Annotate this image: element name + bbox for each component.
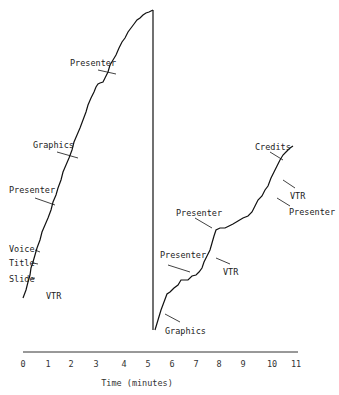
label-voice: Voice xyxy=(9,244,35,254)
label-presenter-1: Presenter xyxy=(9,185,55,195)
leader-graphics-1 xyxy=(57,152,78,158)
label-credits: Credits xyxy=(255,142,291,152)
label-presenter-4: Presenter xyxy=(176,208,222,218)
x-tick-3: 3 xyxy=(93,359,98,369)
leader-presenter-5 xyxy=(277,198,290,206)
x-tick-4: 4 xyxy=(121,359,126,369)
label-presenter-5: Presenter xyxy=(289,207,335,217)
time-chart: VTR Slide Title Voice Presenter Graphics… xyxy=(0,0,339,395)
x-axis-label: Time (minutes) xyxy=(101,378,173,388)
label-vtr-2: VTR xyxy=(223,267,239,277)
x-tick-2: 2 xyxy=(68,359,73,369)
x-tick-8: 8 xyxy=(216,359,221,369)
label-presenter-3: Presenter xyxy=(160,250,206,260)
curve-segment-1 xyxy=(23,10,153,298)
label-graphics-1: Graphics xyxy=(33,140,74,150)
label-presenter-2: Presenter xyxy=(70,58,116,68)
x-tick-5: 5 xyxy=(145,359,150,369)
leader-credits xyxy=(270,152,283,160)
x-tick-7: 7 xyxy=(193,359,198,369)
x-tick-0: 0 xyxy=(20,359,25,369)
x-tick-9: 9 xyxy=(240,359,245,369)
label-title: Title xyxy=(9,258,35,268)
label-vtr-1: VTR xyxy=(46,291,62,301)
leader-graphics-2 xyxy=(165,314,180,322)
x-tick-11: 11 xyxy=(291,359,301,369)
x-tick-1: 1 xyxy=(45,359,50,369)
leader-presenter-4 xyxy=(195,218,212,228)
leader-vtr-2 xyxy=(216,258,230,264)
leader-vtr-3 xyxy=(283,180,295,188)
leader-presenter-3 xyxy=(168,265,190,272)
label-slide: Slide xyxy=(9,274,35,284)
curve-segment-2 xyxy=(155,146,293,330)
x-tick-6: 6 xyxy=(169,359,174,369)
label-vtr-3: VTR xyxy=(290,191,306,201)
x-tick-10: 10 xyxy=(267,359,277,369)
label-graphics-2: Graphics xyxy=(165,326,206,336)
leader-presenter-1 xyxy=(35,198,55,205)
